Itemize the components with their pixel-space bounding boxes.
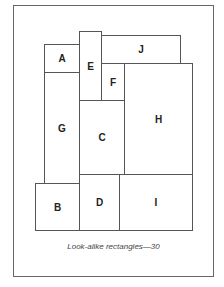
rectangle-d: D — [79, 174, 120, 231]
rectangle-c: C — [79, 100, 125, 175]
rectangle-f: F — [101, 63, 125, 101]
rectangle-g: G — [44, 72, 80, 184]
rectangle-h: H — [124, 63, 193, 175]
figure-caption: Look-alike rectangles—30 — [13, 242, 214, 251]
rectangle-a: A — [44, 44, 80, 73]
rectangle-i: I — [119, 174, 193, 231]
rectangle-b: B — [35, 183, 80, 231]
rectangle-e: E — [79, 31, 102, 101]
rectangle-j: J — [101, 35, 181, 64]
